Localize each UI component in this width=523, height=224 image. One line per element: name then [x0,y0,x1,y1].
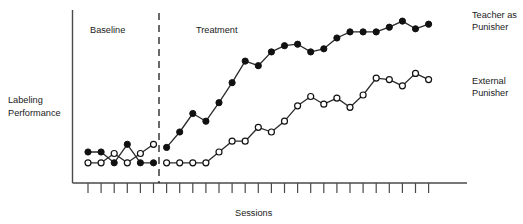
data-point [347,104,353,110]
data-point [399,83,405,89]
data-point [177,129,183,135]
data-point [216,149,222,155]
data-point [360,92,366,98]
data-point [137,151,143,157]
data-point [229,138,235,144]
data-point [295,41,301,47]
x-axis-ticks [88,183,429,193]
phase-label-treatment: Treatment [196,25,238,35]
data-point [360,29,366,35]
data-point [426,77,432,83]
phase-label-baseline: Baseline [90,25,125,35]
data-point [190,160,196,166]
data-point [255,63,261,69]
data-point [203,118,209,124]
data-point [321,46,327,52]
y-axis-label-line2: Performance [8,108,61,118]
data-point [281,43,287,49]
data-point [124,141,130,147]
data-point [216,100,222,106]
data-point [399,18,405,24]
data-point [347,29,353,35]
data-point [164,160,170,166]
data-point [203,160,209,166]
data-point [151,141,157,147]
data-point [373,29,379,35]
data-point [111,151,117,157]
data-point [242,58,248,64]
data-point [150,160,156,166]
data-point [268,49,274,55]
data-point [229,80,235,86]
chart-figure: Labeling Performance Sessions Baseline T… [0,0,523,224]
data-point [111,160,117,166]
data-point [98,160,104,166]
data-point [190,110,196,116]
data-point [295,103,301,109]
data-point [137,160,143,166]
series-points-external-punisher [85,70,432,165]
data-point [268,129,274,135]
data-point [85,160,91,166]
line-chart-canvas: Labeling Performance Sessions Baseline T… [0,0,523,224]
data-point [124,160,130,166]
data-point [308,49,314,55]
data-point [255,124,261,130]
series-label-external-punisher-line2: Punisher [472,88,508,98]
data-point [334,35,340,41]
data-point [308,94,314,100]
data-point [386,24,392,30]
series-points-teacher-as-punisher [85,18,432,166]
series-group-external-punisher [85,70,432,165]
data-point [177,160,183,166]
data-point [242,138,248,144]
x-axis-label: Sessions [235,208,273,218]
series-line-teacher-as-punisher-treatment [167,21,429,147]
data-point [426,21,432,27]
series-label-external-punisher-line1: External [472,76,506,86]
data-point [321,101,327,107]
data-point [413,70,419,76]
series-group-teacher-as-punisher [85,18,432,166]
data-point [386,77,392,83]
data-point [412,26,418,32]
data-point [373,75,379,81]
data-point [282,118,288,124]
data-point [98,149,104,155]
y-axis-label-line1: Labeling [8,95,43,105]
data-point [85,149,91,155]
data-point [334,95,340,101]
data-point [164,144,170,150]
series-label-teacher-as-punisher-line1: Teacher as [472,10,517,20]
series-label-teacher-as-punisher-line2: Punisher [472,22,508,32]
